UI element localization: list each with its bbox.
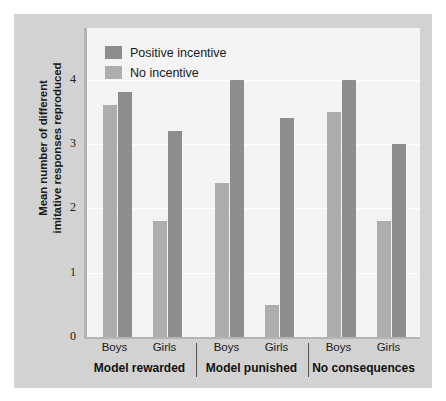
x-sub-label-girls-1: Girls xyxy=(135,341,195,353)
y-axis-title-line-1: Mean number of different xyxy=(36,80,50,216)
chart-legend: Positive incentiveNo incentive xyxy=(105,44,227,84)
bar-no-incentive-model-rewarded-girls xyxy=(153,221,167,337)
legend-item-positive-incentive: Positive incentive xyxy=(105,44,227,61)
x-sub-label-girls-3: Girls xyxy=(247,341,307,353)
legend-item-no-incentive: No incentive xyxy=(105,64,227,81)
y-tick-label-0: 0 xyxy=(54,329,76,344)
bar-positive-incentive-model-rewarded-boys xyxy=(118,92,132,337)
gridline-2 xyxy=(87,208,420,209)
bar-no-incentive-no-consequences-boys xyxy=(327,112,341,337)
y-tick-label-3: 3 xyxy=(54,136,76,151)
plot-area: Positive incentiveNo incentive xyxy=(84,28,420,337)
bar-no-incentive-no-consequences-girls xyxy=(377,221,391,337)
x-axis-baseline xyxy=(84,337,420,339)
bar-chart-figure: Mean number of different imitative respo… xyxy=(0,0,446,401)
legend-label: Positive incentive xyxy=(130,46,227,60)
x-group-label-no-consequences: No consequences xyxy=(304,361,424,375)
bar-positive-incentive-no-consequences-boys xyxy=(342,80,356,338)
legend-swatch-icon xyxy=(105,46,122,59)
x-group-label-model-punished: Model punished xyxy=(192,361,312,375)
bar-no-incentive-model-punished-girls xyxy=(265,305,279,337)
bar-positive-incentive-no-consequences-girls xyxy=(392,144,406,337)
bar-no-incentive-model-rewarded-boys xyxy=(103,105,117,337)
y-tick-label-2: 2 xyxy=(54,200,76,215)
bar-no-incentive-model-punished-boys xyxy=(215,183,229,338)
legend-label: No incentive xyxy=(130,66,199,80)
x-axis-labels: BoysGirlsBoysGirlsBoysGirlsModel rewarde… xyxy=(84,341,420,387)
bar-positive-incentive-model-punished-girls xyxy=(280,118,294,337)
y-tick-label-1: 1 xyxy=(54,265,76,280)
bar-positive-incentive-model-punished-boys xyxy=(230,80,244,338)
gridline-3 xyxy=(87,144,420,145)
legend-swatch-icon xyxy=(105,66,122,79)
x-group-label-model-rewarded: Model rewarded xyxy=(80,361,200,375)
gridline-1 xyxy=(87,273,420,274)
x-sub-label-girls-5: Girls xyxy=(359,341,419,353)
y-tick-label-4: 4 xyxy=(54,72,76,87)
bar-positive-incentive-model-rewarded-girls xyxy=(168,131,182,337)
